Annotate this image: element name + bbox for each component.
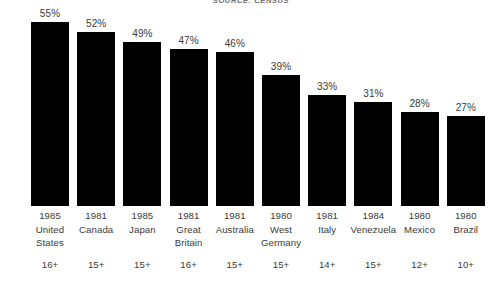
category-country: Australia — [211, 223, 259, 237]
category-year: 1985 — [26, 209, 74, 223]
bar-value-label: 39% — [259, 61, 303, 72]
category-age: 10+ — [442, 258, 490, 272]
bar-slot: 52% — [77, 10, 115, 206]
category-country: Brazil — [442, 223, 490, 237]
category-age: 15+ — [118, 258, 166, 272]
category-age: 16+ — [26, 258, 74, 272]
category-year: 1980 — [396, 209, 444, 223]
bar[interactable] — [401, 112, 439, 206]
bar-value-label: 49% — [120, 28, 164, 39]
category-year: 1985 — [118, 209, 166, 223]
x-axis-category: 1980West Germany15+ — [257, 209, 305, 250]
bar[interactable] — [447, 116, 485, 207]
x-axis-category: 1981Australia15+ — [211, 209, 259, 236]
bar[interactable] — [354, 102, 392, 206]
bar-value-label: 28% — [398, 98, 442, 109]
bar[interactable] — [308, 95, 346, 206]
bar[interactable] — [170, 49, 208, 207]
bar-slot: 49% — [123, 10, 161, 206]
bar[interactable] — [262, 75, 300, 206]
category-country: Italy — [303, 223, 351, 237]
category-year: 1981 — [211, 209, 259, 223]
x-axis-category: 1980Mexico12+ — [396, 209, 444, 236]
category-country: Mexico — [396, 223, 444, 237]
x-axis-category: 1981Great Britain16+ — [165, 209, 213, 250]
x-axis-category: 1984Venezuela15+ — [349, 209, 397, 236]
category-country: United States — [26, 223, 74, 250]
x-axis-category: 1981Canada15+ — [72, 209, 120, 236]
category-age: 15+ — [349, 258, 397, 272]
bar[interactable] — [77, 32, 115, 206]
category-year: 1981 — [72, 209, 120, 223]
bar-value-label: 52% — [74, 18, 118, 29]
bar-chart-plot-area: 55%52%49%47%46%39%33%31%28%27% — [31, 10, 497, 206]
category-year: 1981 — [165, 209, 213, 223]
bar-slot: 46% — [216, 10, 254, 206]
x-axis-category: 1980Brazil10+ — [442, 209, 490, 236]
category-age: 15+ — [72, 258, 120, 272]
category-year: 1984 — [349, 209, 397, 223]
bar[interactable] — [31, 22, 69, 206]
category-age: 15+ — [211, 258, 259, 272]
bar-value-label: 27% — [444, 102, 488, 113]
category-country: Great Britain — [165, 223, 213, 250]
bar-slot: 39% — [262, 10, 300, 206]
bar[interactable] — [216, 52, 254, 206]
category-country: Japan — [118, 223, 166, 237]
category-year: 1981 — [303, 209, 351, 223]
bar-value-label: 46% — [213, 38, 257, 49]
category-year: 1980 — [257, 209, 305, 223]
category-age: 15+ — [257, 258, 305, 272]
category-year: 1980 — [442, 209, 490, 223]
category-country: Venezuela — [349, 223, 397, 237]
bar-value-label: 31% — [351, 88, 395, 99]
category-age: 12+ — [396, 258, 444, 272]
bar-slot: 31% — [354, 10, 392, 206]
bar-slot: 33% — [308, 10, 346, 206]
bar-slot: 47% — [170, 10, 208, 206]
bar-slot: 27% — [447, 10, 485, 206]
bar-value-label: 47% — [167, 35, 211, 46]
category-age: 14+ — [303, 258, 351, 272]
x-axis-category: 1985United States16+ — [26, 209, 74, 250]
bar[interactable] — [123, 42, 161, 206]
x-axis-category: 1985Japan15+ — [118, 209, 166, 236]
bar-value-label: 33% — [305, 81, 349, 92]
source-caption: SOURCE: CENSUS — [0, 0, 502, 5]
bar-slot: 28% — [401, 10, 439, 206]
category-country: West Germany — [257, 223, 305, 250]
category-age: 16+ — [165, 258, 213, 272]
category-country: Canada — [72, 223, 120, 237]
x-axis-category-labels: 1985United States16+1981Canada15+1985Jap… — [31, 209, 497, 289]
bar-value-label: 55% — [28, 8, 72, 19]
bar-slot: 55% — [31, 10, 69, 206]
x-axis-category: 1981Italy14+ — [303, 209, 351, 236]
